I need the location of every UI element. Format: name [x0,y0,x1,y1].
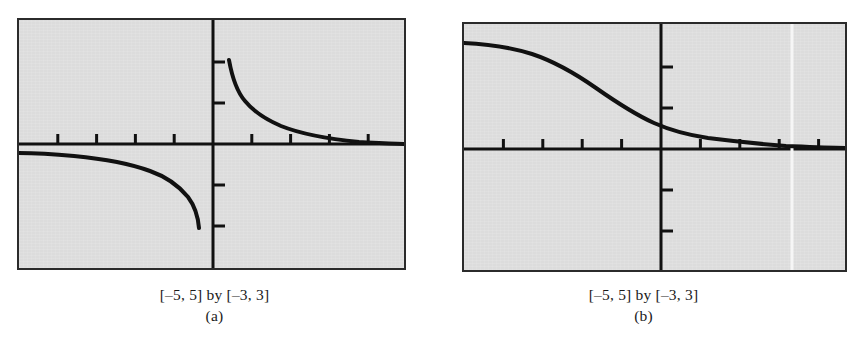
caption-block-a: [–5, 5] by [–3, 3] (a) [0,285,429,327]
caption-range-a: [–5, 5] by [–3, 3] [0,285,429,305]
caption-label-b: (b) [429,305,858,327]
plot-canvas-b [464,24,847,272]
figure-panel-a: [–5, 5] by [–3, 3] (a) [0,0,429,360]
curve-a-right-branch [229,60,406,144]
figure-panel-b: [–5, 5] by [–3, 3] (b) [429,0,858,360]
curve-a-left-branch [19,153,199,228]
figure-sheet: [–5, 5] by [–3, 3] (a) [0,0,858,360]
plot-frame-b [462,22,847,272]
caption-range-b: [–5, 5] by [–3, 3] [429,285,858,305]
curve-b-sigmoid [464,43,847,148]
caption-block-b: [–5, 5] by [–3, 3] (b) [429,285,858,327]
plot-frame-a [17,18,406,270]
caption-label-a: (a) [0,305,429,327]
plot-canvas-a [19,20,406,270]
